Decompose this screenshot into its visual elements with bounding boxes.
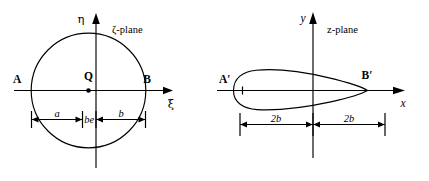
label-eta-axis: η (78, 12, 85, 26)
dimension-row-left: a be b (32, 108, 146, 128)
dim-label-2b-second: 2b (344, 113, 355, 124)
dim-label-2b-first: 2b (271, 113, 282, 124)
label-xi-axis: ξ (168, 97, 174, 111)
dim-arrow-2b-second-right (378, 121, 385, 127)
label-point-b: B (143, 73, 151, 85)
dim-arrow-a-left (32, 116, 39, 122)
dimension-row-right: 2b 2b (240, 113, 385, 136)
dim-arrow-2b-second-left (313, 121, 320, 127)
label-x-axis: x (399, 97, 406, 109)
dim-arrow-b-right (139, 116, 146, 122)
label-point-a-prime: A′ (219, 73, 231, 85)
label-y-axis: y (299, 12, 306, 25)
xi-axis-arrowhead (163, 87, 173, 95)
label-z-plane: z-plane (327, 24, 358, 35)
dim-label-a: a (54, 108, 59, 119)
x-axis-arrowhead (393, 87, 405, 95)
zeta-plane-panel: A Q B η ξ ζ-plane a be b (0, 0, 215, 181)
dim-label-b: b (118, 108, 123, 119)
label-point-a: A (13, 73, 22, 85)
y-axis (309, 12, 317, 158)
dim-label-be: be (84, 114, 94, 125)
x-axis (217, 87, 405, 95)
dim-arrow-b-left (96, 116, 103, 122)
dim-arrow-a-right (76, 116, 83, 122)
label-point-b-prime: B′ (362, 69, 373, 81)
y-axis-arrowhead (309, 12, 317, 24)
label-point-q: Q (84, 70, 93, 82)
dim-arrow-2b-first-left (240, 121, 247, 127)
eta-axis-arrowhead (92, 13, 100, 24)
figure-container: A Q B η ξ ζ-plane a be b (0, 0, 429, 181)
label-zeta-plane: ζ-plane (112, 24, 143, 36)
xi-axis (14, 87, 173, 95)
airfoil-shape (234, 70, 368, 110)
circle-center-dot (86, 88, 91, 93)
dim-arrow-2b-first-right (306, 121, 313, 127)
z-plane-panel: A′ B′ y x z-plane 2b 2b (215, 0, 429, 181)
